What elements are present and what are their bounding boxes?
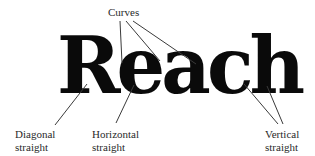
label-diagonal-straight: Diagonal straight [15,128,55,154]
label-diagonal-line1: Diagonal [15,128,55,141]
label-horizontal-line1: Horizontal [92,128,139,141]
typography-diagram: Reach Curves Diagonal straight Horizonta… [0,0,315,156]
label-vertical-straight: Vertical straight [265,128,299,154]
label-horizontal-straight: Horizontal straight [92,128,139,154]
label-diagonal-line2: straight [15,141,55,154]
label-vertical-line2: straight [265,141,299,154]
sample-word: Reach [57,27,301,105]
label-curves-text: Curves [108,6,139,18]
label-vertical-line1: Vertical [265,128,299,141]
label-horizontal-line2: straight [92,141,139,154]
label-curves: Curves [108,6,139,19]
